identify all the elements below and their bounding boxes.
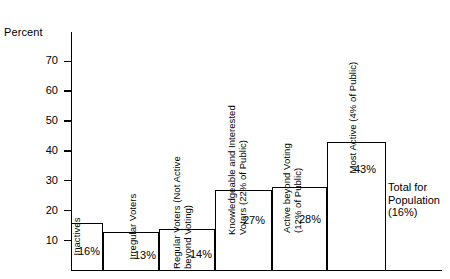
y-tick-label: 60 bbox=[28, 85, 58, 96]
y-tick-mark bbox=[64, 180, 72, 181]
y-axis-title: Percent bbox=[4, 26, 43, 38]
bar-value-label: 14% bbox=[190, 249, 212, 260]
category-label: Knowledgeable and Interested Voters (22%… bbox=[227, 105, 248, 235]
category-label: Regular Voters (Not Active beyond Voting… bbox=[172, 156, 193, 269]
y-tick-mark bbox=[64, 210, 72, 211]
y-tick-mark bbox=[64, 150, 72, 151]
total-population-note: Total for Population (16%) bbox=[388, 181, 440, 219]
y-tick-label: 30 bbox=[28, 175, 58, 186]
category-label: Inactives bbox=[72, 218, 83, 256]
category-label: Active beyond Voting (12% of Public) bbox=[282, 143, 303, 233]
y-tick-label: 20 bbox=[28, 205, 58, 216]
y-tick-mark bbox=[64, 90, 72, 91]
y-tick-mark bbox=[64, 120, 72, 121]
y-tick-label: 10 bbox=[28, 235, 58, 246]
y-tick-label: 40 bbox=[28, 145, 58, 156]
y-tick-mark bbox=[64, 61, 72, 62]
category-label: Most Active (4% of Public) bbox=[348, 62, 359, 174]
y-tick-label: 70 bbox=[28, 55, 58, 66]
y-tick-label: 50 bbox=[28, 115, 58, 126]
bar-chart: Percent 70605040302010 16%13%14%27%28%43… bbox=[0, 0, 450, 279]
category-label: Irregular Voters bbox=[128, 194, 139, 260]
